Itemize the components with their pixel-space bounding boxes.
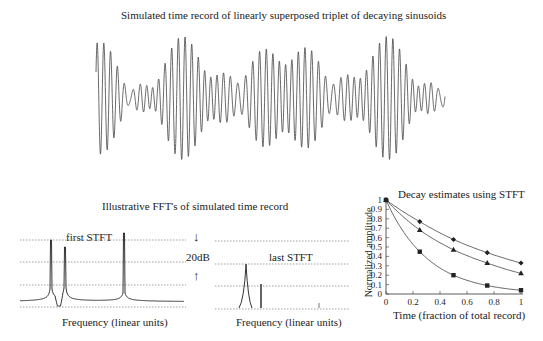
svg-text:0: 0 bbox=[378, 289, 383, 299]
svg-text:0.8: 0.8 bbox=[488, 297, 500, 307]
svg-text:1: 1 bbox=[519, 297, 524, 307]
decay-chart: 00.10.20.30.40.50.60.70.80.9100.20.40.60… bbox=[0, 0, 543, 341]
svg-text:0.3: 0.3 bbox=[371, 261, 383, 271]
svg-text:0.1: 0.1 bbox=[371, 280, 382, 290]
svg-text:0.4: 0.4 bbox=[371, 251, 383, 261]
svg-text:0.4: 0.4 bbox=[434, 297, 446, 307]
svg-text:0.2: 0.2 bbox=[371, 270, 382, 280]
svg-text:0.8: 0.8 bbox=[371, 214, 383, 224]
svg-text:1: 1 bbox=[378, 195, 383, 205]
svg-text:0.6: 0.6 bbox=[461, 297, 473, 307]
svg-text:0: 0 bbox=[384, 297, 389, 307]
svg-text:0.5: 0.5 bbox=[371, 242, 383, 252]
svg-text:0.6: 0.6 bbox=[371, 233, 383, 243]
svg-text:0.2: 0.2 bbox=[407, 297, 418, 307]
svg-text:0.7: 0.7 bbox=[371, 223, 383, 233]
svg-text:0.9: 0.9 bbox=[371, 204, 383, 214]
